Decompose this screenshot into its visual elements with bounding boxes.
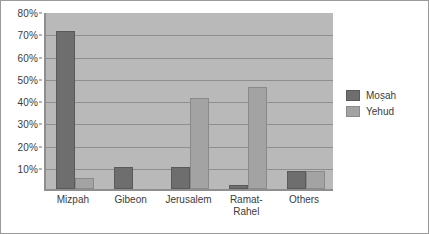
y-axis-tick-mark (39, 57, 42, 58)
legend-label: Yehud (366, 106, 394, 117)
y-axis-tick-label: 10% (17, 163, 38, 174)
chart-legend: MoṣahYehud (346, 90, 426, 122)
bar-0-4 (287, 171, 306, 189)
y-axis-tick-label: 20% (17, 141, 38, 152)
bar-0-0 (56, 31, 75, 189)
y-axis-tick-mark (39, 168, 42, 169)
bar-0-2 (171, 167, 190, 189)
y-axis-tick-label: 70% (17, 30, 38, 41)
bar-1-3 (248, 87, 267, 189)
bar-0-3 (229, 185, 248, 189)
y-axis-tick-mark (39, 79, 42, 80)
y-axis-tick-label: 60% (17, 52, 38, 63)
legend-label: Moṣah (366, 90, 396, 101)
y-axis-tick-mark (39, 146, 42, 147)
bar-group (46, 13, 104, 189)
legend-item[interactable]: Moṣah (346, 90, 426, 101)
x-axis-tick-label: Mizpah (44, 194, 102, 206)
bar-0-1 (114, 167, 133, 189)
y-axis-tick-mark (39, 35, 42, 36)
x-axis-tick-label: Jerusalem (160, 194, 218, 206)
x-axis-labels: MizpahGibeonJerusalemRamat- RahelOthers (44, 194, 333, 228)
y-axis: 10%20%30%40%50%60%70%80% (1, 13, 42, 191)
y-axis-tick-mark (39, 13, 42, 14)
legend-swatch-icon (346, 90, 360, 101)
plot-inner (46, 13, 333, 189)
bar-group (219, 13, 277, 189)
y-axis-tick-mark (39, 124, 42, 125)
chart-figure: 10%20%30%40%50%60%70%80% MizpahGibeonJer… (0, 0, 429, 234)
y-axis-tick-label: 30% (17, 119, 38, 130)
plot-area (44, 13, 333, 191)
legend-swatch-icon (346, 106, 360, 117)
bar-1-2 (190, 98, 209, 189)
y-axis-tick-label: 80% (17, 8, 38, 19)
y-axis-tick-mark (39, 102, 42, 103)
bar-group (162, 13, 220, 189)
bar-group (277, 13, 335, 189)
bar-1-0 (75, 178, 94, 189)
y-axis-tick-label: 40% (17, 97, 38, 108)
bar-group (104, 13, 162, 189)
y-axis-tick-label: 50% (17, 74, 38, 85)
bar-1-4 (306, 171, 325, 189)
x-axis-tick-label: Ramat- Rahel (217, 194, 275, 218)
x-axis-tick-label: Gibeon (102, 194, 160, 206)
legend-item[interactable]: Yehud (346, 106, 426, 117)
x-axis-tick-label: Others (275, 194, 333, 206)
